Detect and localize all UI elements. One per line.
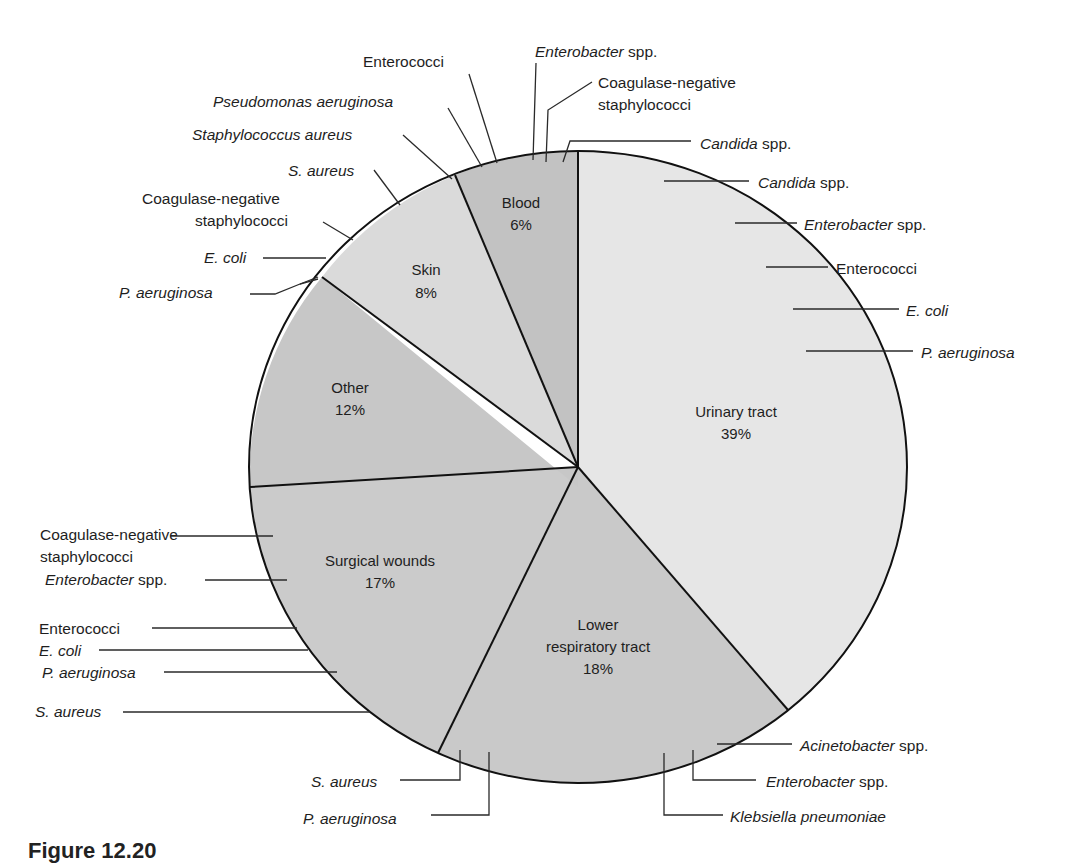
callout-urinary-p-aeruginosa: P. aeruginosa xyxy=(921,344,1015,361)
label-surgical-wounds: Surgical wounds xyxy=(325,552,435,569)
callout-lower-resp-enterobacter: Enterobacter spp. xyxy=(766,773,888,790)
callout-lower-resp-klebsiella: Klebsiella pneumoniae xyxy=(730,808,886,825)
label-blood: Blood xyxy=(502,194,540,211)
label-urinary-pct: 39% xyxy=(721,425,751,442)
callout-surgical-coag-neg-2: staphylococci xyxy=(40,548,133,565)
callout-urinary-candida-spp: spp. xyxy=(816,174,850,191)
label-surgical-pct: 17% xyxy=(365,574,395,591)
label-lower-resp-2: respiratory tract xyxy=(546,638,651,655)
callout-surgical-e-coli: E. coli xyxy=(39,642,82,659)
label-skin-pct: 8% xyxy=(415,284,437,301)
callout-surgical-s-aureus: S. aureus xyxy=(35,703,102,720)
callout-lower-resp-acinetobacter-genus: Acinetobacter xyxy=(799,737,896,754)
callout-blood-candida-genus: Candida xyxy=(700,135,758,152)
callout-skin-coag-neg-2: staphylococci xyxy=(195,212,288,229)
callout-blood-coag-neg-2: staphylococci xyxy=(598,96,691,113)
callout-blood-coag-neg-1: Coagulase-negative xyxy=(598,74,736,91)
callout-skin-p-aeruginosa: P. aeruginosa xyxy=(119,284,213,301)
callout-skin-s-aureus: S. aureus xyxy=(288,162,355,179)
callout-urinary-enterobacter-spp: spp. xyxy=(893,216,927,233)
callout-urinary-enterobacter: Enterobacter spp. xyxy=(804,216,926,233)
figure-caption: Figure 12.20 xyxy=(28,838,156,864)
callout-surgical-enterobacter-genus: Enterobacter xyxy=(45,571,135,588)
callout-surgical-p-aeruginosa: P. aeruginosa xyxy=(42,664,136,681)
callout-lower-resp-acinetobacter: Acinetobacter spp. xyxy=(799,737,928,754)
callout-urinary-enterococci: Enterococci xyxy=(836,260,917,277)
callout-surgical-enterococci: Enterococci xyxy=(39,620,120,637)
callout-lower-resp-p-aeruginosa: P. aeruginosa xyxy=(303,810,397,827)
callout-surgical-enterobacter-spp: spp. xyxy=(134,571,168,588)
callout-lower-resp-enterobacter-spp: spp. xyxy=(855,773,889,790)
callout-urinary-candida: Candida spp. xyxy=(758,174,849,191)
callout-blood-enterobacter-spp: spp. xyxy=(624,43,658,60)
callouts-blood: Enterococci Enterobacter spp. Coagulase-… xyxy=(192,43,791,179)
callout-urinary-enterobacter-genus: Enterobacter xyxy=(804,216,894,233)
callout-skin-coag-neg-1: Coagulase-negative xyxy=(142,190,280,207)
callout-lower-resp-enterobacter-genus: Enterobacter xyxy=(766,773,856,790)
label-lower-resp-1: Lower xyxy=(578,616,619,633)
callout-surgical-coag-neg-1: Coagulase-negative xyxy=(40,526,178,543)
callout-lower-resp-s-aureus: S. aureus xyxy=(311,773,378,790)
callout-blood-candida: Candida spp. xyxy=(700,135,791,152)
callout-blood-enterobacter: Enterobacter spp. xyxy=(535,43,657,60)
callout-blood-enterococci: Enterococci xyxy=(363,53,444,70)
callout-blood-candida-spp: spp. xyxy=(758,135,792,152)
label-blood-pct: 6% xyxy=(510,216,532,233)
callout-surgical-enterobacter: Enterobacter spp. xyxy=(45,571,167,588)
callout-urinary-e-coli: E. coli xyxy=(906,302,949,319)
label-other-pct: 12% xyxy=(335,401,365,418)
callout-blood-pseudomonas: Pseudomonas aeruginosa xyxy=(213,93,393,110)
callout-urinary-candida-genus: Candida xyxy=(758,174,816,191)
label-other: Other xyxy=(331,379,369,396)
label-lower-resp-pct: 18% xyxy=(583,660,613,677)
callout-blood-enterobacter-genus: Enterobacter xyxy=(535,43,625,60)
label-urinary-tract: Urinary tract xyxy=(695,403,778,420)
callout-skin-e-coli: E. coli xyxy=(204,249,247,266)
callout-lower-resp-acinetobacter-spp: spp. xyxy=(895,737,929,754)
label-skin: Skin xyxy=(411,261,440,278)
callout-blood-staph: Staphylococcus aureus xyxy=(192,126,353,143)
